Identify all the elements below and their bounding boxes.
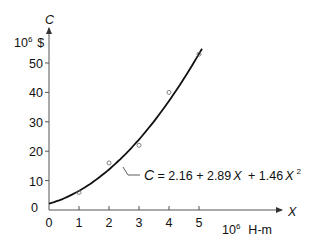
x-tick-label: 0	[46, 216, 53, 230]
y-tick-label: 20	[29, 145, 43, 159]
y-axis-label: C	[45, 13, 55, 27]
y-tick-label: 10	[29, 175, 43, 189]
y-tick-label: 50	[29, 57, 43, 71]
chart: 01020304050 012345 C 106$ X 106H-m C = 2…	[0, 0, 322, 242]
x-unit-label: 106H-m	[222, 222, 272, 237]
x-tick-label: 5	[196, 216, 203, 230]
y-tick-label: 0	[31, 201, 38, 215]
y-unit-label: 106$	[14, 35, 44, 50]
x-tick-label: 3	[136, 216, 143, 230]
fit-equation: C = 2.16 + 2.89X + 1.46X2	[144, 167, 302, 183]
x-tick-label: 2	[106, 216, 113, 230]
x-tick-label: 1	[76, 216, 83, 230]
x-axis-label: X	[287, 205, 297, 219]
y-tick-label: 40	[29, 86, 43, 100]
y-tick-label: 30	[29, 116, 43, 130]
data-point	[167, 90, 171, 94]
equation-leader-line	[123, 167, 140, 175]
y-ticks: 01020304050	[29, 57, 49, 215]
data-point	[107, 161, 111, 165]
x-tick-label: 4	[166, 216, 173, 230]
data-point	[137, 143, 141, 147]
